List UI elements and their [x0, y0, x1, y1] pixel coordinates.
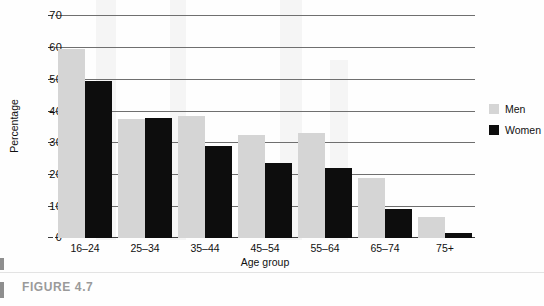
- bar-men[interactable]: [178, 116, 205, 238]
- bar-group: [295, 15, 355, 238]
- bar-group: [175, 15, 235, 238]
- legend-label-men: Men: [505, 103, 525, 115]
- legend-item-women[interactable]: Women: [489, 124, 541, 136]
- x-axis-label: Age group: [241, 256, 289, 268]
- bar-women[interactable]: [385, 209, 412, 238]
- page-edge-mark: [0, 282, 4, 298]
- bar-women[interactable]: [325, 168, 352, 238]
- figure-page: Percentage 70 60 50 40 30 20 10 0: [0, 0, 544, 306]
- legend-label-women: Women: [505, 124, 541, 136]
- bar-group: [355, 15, 415, 238]
- xtick-label: 16–24: [70, 242, 99, 254]
- bar-women[interactable]: [85, 81, 112, 238]
- bar-men[interactable]: [118, 119, 145, 238]
- bar-groups: [55, 15, 475, 238]
- bar-chart: Percentage 70 60 50 40 30 20 10 0: [0, 0, 544, 262]
- bar-group: [415, 15, 475, 238]
- bar-men[interactable]: [418, 217, 445, 238]
- bar-men[interactable]: [358, 178, 385, 238]
- legend-swatch-men: [489, 104, 499, 114]
- xtick-label: 45–54: [250, 242, 279, 254]
- bar-men[interactable]: [238, 135, 265, 238]
- y-axis-label: Percentage: [8, 99, 20, 153]
- bar-women[interactable]: [265, 163, 292, 238]
- caption-divider: [0, 272, 544, 273]
- legend-swatch-women: [489, 125, 499, 135]
- xtick-label: 35–44: [190, 242, 219, 254]
- xtick-label: 75+: [436, 242, 454, 254]
- chart-legend: Men Women: [489, 103, 541, 136]
- figure-caption: FIGURE 4.7: [22, 280, 93, 294]
- bar-group: [55, 15, 115, 238]
- bar-men[interactable]: [58, 49, 85, 238]
- xtick-label: 65–74: [370, 242, 399, 254]
- bar-women[interactable]: [445, 233, 472, 238]
- bar-group: [115, 15, 175, 238]
- bar-group: [235, 15, 295, 238]
- bar-women[interactable]: [145, 118, 172, 239]
- xtick-label: 55–64: [310, 242, 339, 254]
- bar-men[interactable]: [298, 133, 325, 238]
- xtick-label: 25–34: [130, 242, 159, 254]
- legend-item-men[interactable]: Men: [489, 103, 541, 115]
- bar-women[interactable]: [205, 146, 232, 238]
